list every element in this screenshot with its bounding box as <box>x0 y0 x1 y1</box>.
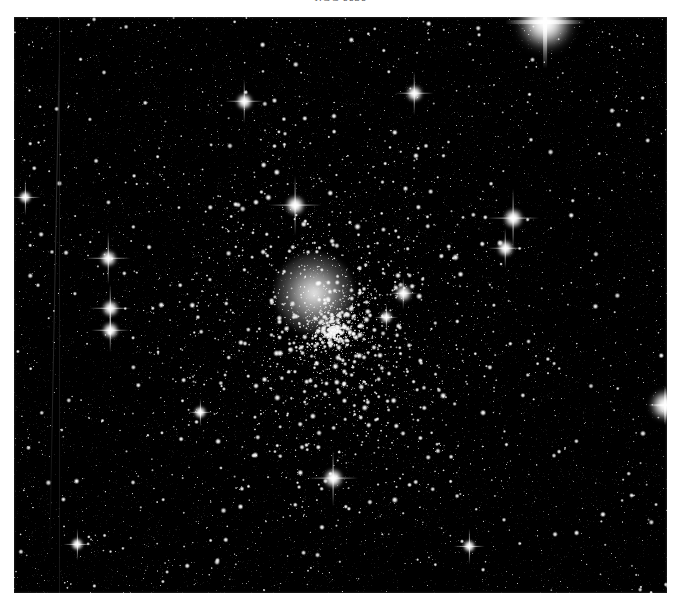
photographic-plate <box>14 17 667 593</box>
figure-caption: NGC 6656 <box>0 0 682 3</box>
plate-vertical-bar <box>59 17 60 593</box>
astronomy-figure: NGC 6656 <box>0 0 682 607</box>
cluster-core <box>275 253 353 334</box>
